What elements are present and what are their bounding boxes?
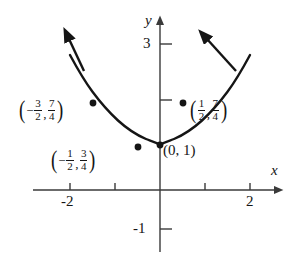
open-paren: ( [190, 97, 196, 122]
minus-sign: − [26, 104, 33, 117]
open-paren: ( [19, 97, 25, 122]
fraction-one-half: 1 2 [198, 98, 206, 123]
denominator: 4 [80, 160, 88, 173]
y-axis [160, 24, 172, 252]
open-paren: ( [51, 147, 57, 172]
fraction-one-half: 1 2 [66, 148, 74, 173]
close-paren: ) [221, 97, 227, 122]
data-point-neg-three-halves [90, 100, 97, 107]
fraction-three-fourths: 3 4 [80, 148, 88, 173]
numerator: 3 [80, 148, 88, 160]
point-label-one-half: ( 1 2 , 7 4 ) [189, 98, 228, 123]
curve-right-arrow [207, 39, 236, 71]
x-axis [33, 183, 275, 190]
data-point-vertex [135, 144, 142, 151]
x-tick-label--2: -2 [61, 194, 74, 209]
fraction-three-halves: 3 2 [34, 98, 42, 123]
denominator: 2 [34, 110, 42, 123]
comma: , [42, 107, 47, 120]
close-paren: ) [57, 97, 63, 122]
point-label-neg-three-halves: (− 3 2 , 7 4 ) [18, 98, 64, 123]
x-axis-label: x [271, 163, 278, 178]
comma: , [74, 157, 79, 170]
fraction-seven-fourths: 7 4 [48, 98, 56, 123]
denominator: 4 [212, 110, 220, 123]
denominator: 2 [66, 160, 74, 173]
denominator: 4 [48, 110, 56, 123]
y-axis-label: y [145, 13, 152, 28]
numerator: 1 [198, 98, 206, 110]
point-label-vertex: (− 1 2 , 3 4 ) [50, 148, 96, 173]
y-tick-label--1: -1 [133, 221, 146, 236]
numerator: 7 [212, 98, 220, 110]
denominator: 2 [198, 110, 206, 123]
numerator: 3 [34, 98, 42, 110]
numerator: 7 [48, 98, 56, 110]
close-paren: ) [89, 147, 95, 172]
data-point-one-half [180, 100, 187, 107]
numerator: 1 [66, 148, 74, 160]
parabola-graph-figure: x y -2 2 3 -1 (− 3 2 , 7 4 ) ( 1 2 , 7 4… [0, 0, 294, 262]
comma: , [206, 107, 211, 120]
point-label-y-intercept: (0, 1) [163, 143, 196, 158]
x-tick-label-2: 2 [246, 194, 254, 209]
y-tick-label-3: 3 [143, 36, 151, 51]
minus-sign: − [58, 154, 65, 167]
fraction-seven-fourths: 7 4 [212, 98, 220, 123]
